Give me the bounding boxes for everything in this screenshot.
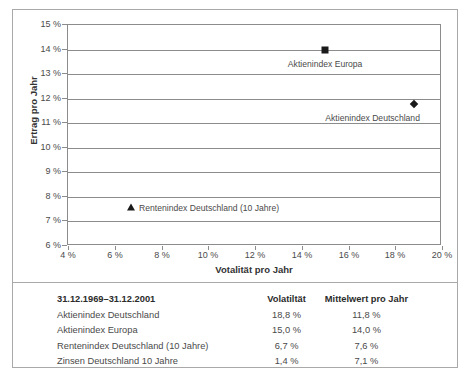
x-axis-tick-label: 14 % [292,251,313,260]
y-axis-tick-mark [62,196,67,197]
table-cell-name: Aktienindex Europa [57,323,252,338]
y-axis-tick-mark [62,24,67,25]
y-axis-tick-label: 9 % [13,167,61,176]
y-axis-tick-mark [62,122,67,123]
table-cell-name: Aktienindex Deutschland [57,308,252,323]
x-axis-tick-label: 18 % [385,251,406,260]
x-axis-tick-label: 4 % [60,251,76,260]
y-axis-tick-label: 8 % [13,192,61,201]
y-axis-tick-mark [62,49,67,50]
x-axis-tick-label: 10 % [198,251,219,260]
x-axis-tick-mark [255,246,256,250]
x-axis-tick-label: 6 % [107,251,123,260]
table-cell-mean: 7,1 % [321,353,412,368]
x-axis-tick-mark [208,246,209,250]
x-axis-tick-mark [442,246,443,250]
table-header-row: 31.12.1969–31.12.2001 Volatiltät Mittelw… [57,291,412,308]
table-header-volatility: Volatiltät [252,291,321,308]
table-cell-volatility: 6,7 % [252,338,321,353]
table-cell-mean: 11,8 % [321,308,412,323]
x-axis-tick-mark [302,246,303,250]
table-cell-mean: 14,0 % [321,323,412,338]
y-axis-ticks: 6 %7 %8 %9 %10 %11 %12 %13 %14 %15 % [13,24,470,245]
x-axis-tick-mark [395,246,396,250]
x-axis-tick-mark [349,246,350,250]
table-row: Aktienindex Europa15,0 %14,0 % [57,323,412,338]
table-row: Aktienindex Deutschland18,8 %11,8 % [57,308,412,323]
y-axis-tick-label: 13 % [13,69,61,78]
figure-card: Ertrag pro Jahr Aktienindex EuropaAktien… [12,9,458,368]
y-axis-tick-label: 15 % [13,20,61,29]
y-axis-tick-label: 7 % [13,216,61,225]
table-header-period: 31.12.1969–31.12.2001 [57,291,252,308]
x-axis-tick-label: 20 % [432,251,453,260]
summary-table-region: 31.12.1969–31.12.2001 Volatiltät Mittelw… [13,283,457,368]
table-cell-name: Zinsen Deutschland 10 Jahre [57,353,252,368]
table-row: Zinsen Deutschland 10 Jahre1,4 %7,1 % [57,353,412,368]
x-axis-title: Votalität pro Jahr [67,264,441,275]
y-axis-tick-label: 6 % [13,241,61,250]
y-axis-tick-mark [62,73,67,74]
table-cell-volatility: 15,0 % [252,323,321,338]
scatter-chart: Ertrag pro Jahr Aktienindex EuropaAktien… [13,10,457,282]
table-cell-name: Rentenindex Deutschland (10 Jahre) [57,338,252,353]
y-axis-tick-mark [62,147,67,148]
y-axis-tick-label: 11 % [13,118,61,127]
table-row: Rentenindex Deutschland (10 Jahre)6,7 %7… [57,338,412,353]
y-axis-tick-mark [62,171,67,172]
table-cell-volatility: 1,4 % [252,353,321,368]
x-axis-tick-mark [115,246,116,250]
figure-root: Ertrag pro Jahr Aktienindex EuropaAktien… [0,0,470,383]
table-header-mean: Mittelwert pro Jahr [321,291,412,308]
y-axis-tick-label: 14 % [13,45,61,54]
table-cell-mean: 7,6 % [321,338,412,353]
x-axis-tick-label: 8 % [154,251,170,260]
y-axis-tick-mark [62,98,67,99]
x-axis-tick-label: 12 % [245,251,266,260]
x-axis-tick-label: 16 % [339,251,360,260]
table-body: Aktienindex Deutschland18,8 %11,8 %Aktie… [57,308,412,369]
y-axis-tick-mark [62,220,67,221]
summary-table: 31.12.1969–31.12.2001 Volatiltät Mittelw… [57,291,412,368]
y-axis-tick-label: 12 % [13,94,61,103]
table-head: 31.12.1969–31.12.2001 Volatiltät Mittelw… [57,291,412,308]
y-axis-tick-label: 10 % [13,143,61,152]
x-axis-tick-mark [68,246,69,250]
table-cell-volatility: 18,8 % [252,308,321,323]
x-axis-tick-mark [162,246,163,250]
